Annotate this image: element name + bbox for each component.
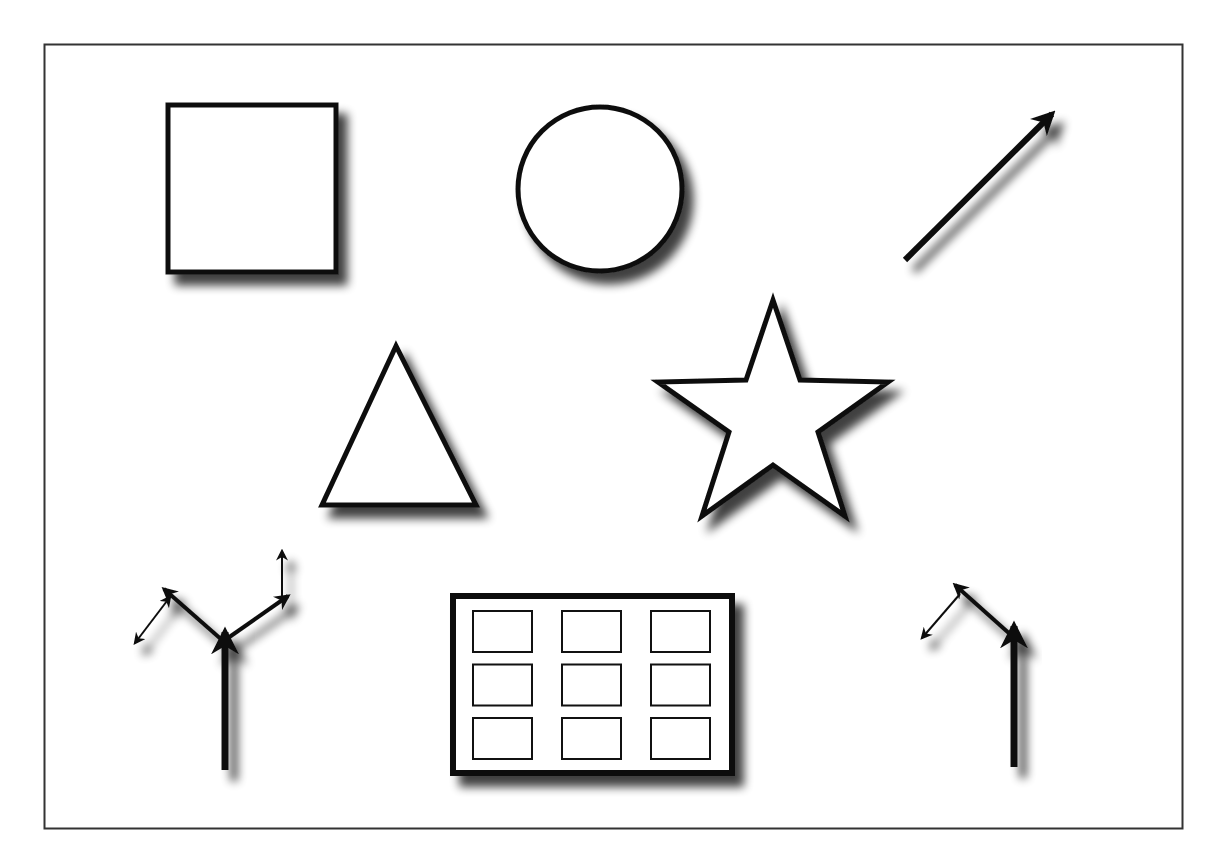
- elbow-connector-shape[interactable]: [922, 585, 1014, 767]
- diagram-canvas: [0, 0, 1228, 866]
- grid-cell: [473, 611, 532, 652]
- arrow-shape[interactable]: [905, 114, 1052, 260]
- square-shape[interactable]: [168, 105, 336, 272]
- circle-shape[interactable]: [518, 107, 682, 271]
- grid-cell: [651, 718, 710, 759]
- elbow-branch-tail: [922, 594, 960, 638]
- grid-cell: [562, 665, 621, 706]
- branching-connector-shape[interactable]: [135, 551, 288, 770]
- connector-branch-left: [164, 589, 222, 640]
- connector-branch-left-tail: [135, 597, 170, 643]
- star-shape[interactable]: [658, 300, 888, 516]
- grid-cell: [651, 665, 710, 706]
- grid-cell: [473, 665, 532, 706]
- grid-cell: [562, 611, 621, 652]
- grid-cell: [651, 611, 710, 652]
- grid-cell: [473, 718, 532, 759]
- triangle-shape[interactable]: [322, 346, 476, 505]
- connector-branch-right: [228, 596, 288, 638]
- elbow-branch: [955, 585, 1011, 635]
- table-grid-cells: [473, 611, 710, 759]
- grid-cell: [562, 718, 621, 759]
